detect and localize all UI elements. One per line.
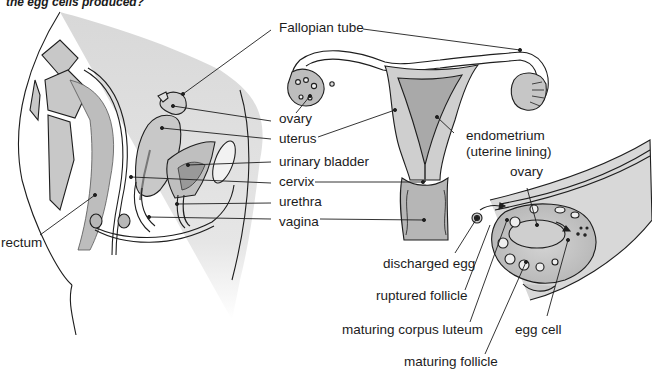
label-fallopian-tube: Fallopian tube [279, 20, 364, 35]
label-urethra: urethra [279, 194, 322, 209]
label-ovary-closeup: ovary [510, 164, 543, 179]
label-endometrium: endometrium [466, 128, 545, 143]
label-maturing-follicle: maturing follicle [404, 354, 498, 369]
reproductive-system-diagram: the egg cells produced? [0, 0, 652, 370]
label-maturing-corpus-luteum: maturing corpus luteum [342, 322, 483, 337]
diagram-artwork [0, 0, 652, 370]
ovary-cross-section [472, 140, 652, 300]
label-ruptured-follicle: ruptured follicle [376, 288, 468, 303]
label-rectum: rectum [1, 235, 42, 250]
label-urinary-bladder: urinary bladder [279, 154, 369, 169]
label-endometrium-sub: (uterine lining) [466, 144, 552, 159]
label-cervix: cervix [279, 174, 314, 189]
label-discharged-egg: discharged egg [383, 256, 475, 271]
label-uterus: uterus [279, 131, 317, 146]
label-egg-cell: egg cell [515, 322, 562, 337]
label-vagina: vagina [279, 214, 319, 229]
label-ovary-side: ovary [279, 111, 312, 126]
pelvis-side-view [18, 12, 262, 335]
